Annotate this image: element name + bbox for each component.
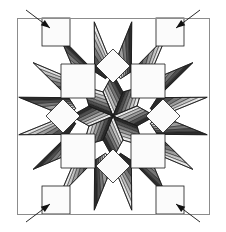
inner-square-bottom-right [131, 134, 165, 168]
inner-square-bottom-left [61, 134, 95, 168]
inner-square-top-left [61, 64, 95, 98]
quilt-block-illustration [0, 0, 226, 232]
quilt-diagram-stage [0, 0, 226, 232]
inner-square-top-right [131, 64, 165, 98]
